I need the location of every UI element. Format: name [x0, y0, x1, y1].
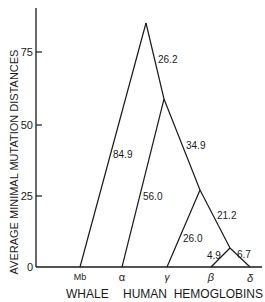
tick-label-0: 0 [27, 261, 33, 273]
branch-label-mb: 84.9 [113, 149, 133, 160]
branch-gamma [167, 190, 200, 267]
leaf-label-alpha: α [119, 271, 126, 283]
leaf-label-gamma: γ [165, 272, 171, 283]
tick-label-75: 75 [21, 46, 33, 58]
tick-label-25: 25 [21, 190, 33, 202]
group-label-human-hemoglobins: HUMAN HEMOGLOBINS [123, 287, 263, 301]
tick-label-50: 50 [21, 119, 33, 131]
branch-label-beta: 4.9 [207, 250, 221, 261]
phylogenetic-tree: 75 50 25 0 AVERAGE MINIMAL MUTATION DIST… [0, 0, 265, 302]
branch-label-gamma: 26.0 [183, 233, 203, 244]
leaf-label-delta: δ [247, 272, 254, 284]
branch-mb [80, 23, 146, 267]
branch-label-alpha: 56.0 [143, 191, 163, 202]
leaf-label-beta: β [207, 271, 215, 283]
branch-label-delta: 6.7 [237, 249, 251, 260]
branch-alpha [122, 99, 164, 267]
branch-label-root-node2: 26.2 [158, 54, 178, 65]
y-axis-title: AVERAGE MINIMAL MUTATION DISTANCES [8, 50, 20, 275]
group-label-whale: WHALE [66, 287, 109, 301]
branch-label-node3-node4: 21.2 [217, 210, 237, 221]
branch-label-node2-node3: 34.9 [186, 140, 206, 151]
leaf-label-mb: Mb [74, 272, 87, 282]
